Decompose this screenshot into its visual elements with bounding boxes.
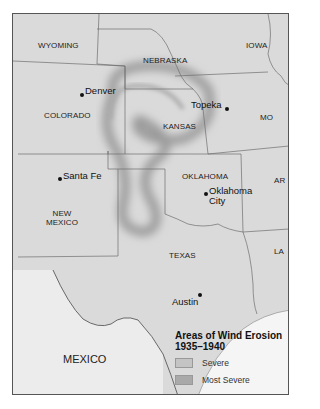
city-marker-oklahoma-city xyxy=(204,192,208,196)
state-label-mo: MO xyxy=(260,113,273,122)
state-label-la: LA xyxy=(274,247,284,256)
legend-title: Areas of Wind Erosion xyxy=(175,330,285,341)
state-label-wyoming: WYOMING xyxy=(38,41,79,50)
state-label-kansas: KANSAS xyxy=(163,122,196,131)
city-marker-denver xyxy=(80,93,84,97)
legend-item-most-severe: Most Severe xyxy=(175,374,285,386)
city-marker-austin xyxy=(198,293,202,297)
state-label-new-mexico: NEW MEXICO xyxy=(42,209,82,227)
legend-years: 1935–1940 xyxy=(175,341,285,352)
legend-swatch-severe xyxy=(175,358,193,368)
legend-item-severe: Severe xyxy=(175,357,285,369)
map-legend: Areas of Wind Erosion 1935–1940 Severe M… xyxy=(175,330,285,386)
state-label-colorado: COLORADO xyxy=(44,111,91,120)
state-label-oklahoma: OKLAHOMA xyxy=(182,172,228,181)
city-label-topeka: Topeka xyxy=(191,100,222,110)
city-marker-santa-fe xyxy=(58,177,62,181)
city-label-austin: Austin xyxy=(172,297,198,307)
city-label-denver: Denver xyxy=(85,86,116,96)
state-label-ar: AR xyxy=(274,176,285,185)
city-label-oklahoma-city: Oklahoma City xyxy=(209,186,259,206)
state-label-texas: TEXAS xyxy=(169,251,196,260)
state-label-iowa: IOWA xyxy=(246,41,267,50)
legend-label-most-severe: Most Severe xyxy=(202,375,250,385)
legend-label-severe: Severe xyxy=(202,358,229,368)
city-label-santa-fe: Santa Fe xyxy=(63,171,102,181)
city-marker-topeka xyxy=(225,107,229,111)
country-label-mexico: MEXICO xyxy=(63,353,106,365)
state-label-nebraska: NEBRASKA xyxy=(143,56,187,65)
legend-swatch-most-severe xyxy=(175,375,193,385)
